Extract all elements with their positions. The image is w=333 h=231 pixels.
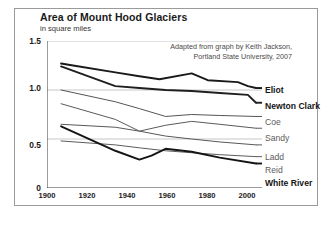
x-tick-label: 1920 xyxy=(72,191,102,200)
y-tick-label: 0.5 xyxy=(17,140,41,150)
series-line-sandy xyxy=(61,104,256,131)
x-tick-label: 1940 xyxy=(112,191,142,200)
series-label-eliot: Eliot xyxy=(265,85,284,95)
line-chart-svg xyxy=(47,41,262,188)
series-line-white-river xyxy=(61,126,256,163)
chart-title: Area of Mount Hood Glaciers xyxy=(40,11,187,23)
series-label-ladd: Ladd xyxy=(265,152,284,162)
y-tick-label: 1.5 xyxy=(17,36,41,46)
chart-subtitle: in square miles xyxy=(40,24,91,33)
series-label-sandy: Sandy xyxy=(265,133,289,143)
series-line-ladd xyxy=(61,124,256,145)
series-line-eliot xyxy=(61,64,256,89)
y-tick-label: 1.0 xyxy=(17,83,41,93)
x-tick-label: 1900 xyxy=(32,191,62,200)
series-label-reid: Reid xyxy=(265,165,283,175)
x-tick-label: 2000 xyxy=(232,191,262,200)
series-line-newton-clark xyxy=(61,66,256,102)
x-tick-label: 1960 xyxy=(152,191,182,200)
plot-area xyxy=(47,41,262,188)
chart-figure: Area of Mount Hood Glaciers in square mi… xyxy=(0,0,333,231)
series-label-coe: Coe xyxy=(265,117,281,127)
series-line-reid xyxy=(61,141,256,157)
series-label-newton-clark: Newton Clark xyxy=(265,101,320,111)
series-label-white-river: White River xyxy=(265,178,312,188)
x-tick-label: 1980 xyxy=(192,191,222,200)
